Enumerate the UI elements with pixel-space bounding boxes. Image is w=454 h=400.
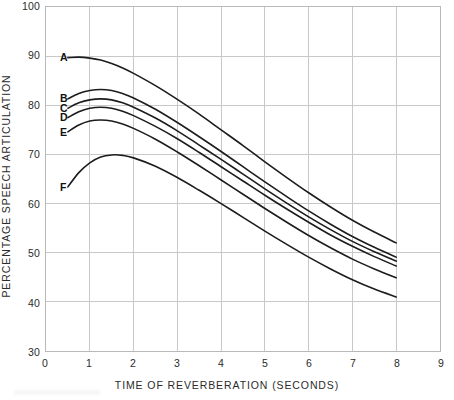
x-tick-label-3: 3 — [165, 357, 189, 369]
curve-e — [68, 120, 396, 278]
x-tick-label-9: 9 — [429, 357, 453, 369]
x-tick-label-4: 4 — [209, 357, 233, 369]
curve-f — [68, 155, 396, 297]
chart-figure: 30405060708090100 0123456789 ABCDEF PERC… — [0, 0, 454, 400]
y-axis-title: PERCENTAGE SPEECH ARTICULATION — [0, 13, 14, 359]
curve-label-a: A — [60, 51, 68, 63]
scan-artifact — [14, 390, 100, 395]
x-tick-label-2: 2 — [121, 357, 145, 369]
x-tick-label-5: 5 — [253, 357, 277, 369]
curve-c — [68, 99, 396, 261]
x-tick-label-7: 7 — [341, 357, 365, 369]
x-tick-label-8: 8 — [385, 357, 409, 369]
x-tick-label-6: 6 — [297, 357, 321, 369]
curve-layer — [46, 7, 440, 351]
curve-label-d: D — [60, 111, 68, 123]
curve-a — [68, 57, 396, 243]
x-tick-label-1: 1 — [77, 357, 101, 369]
curve-label-f: F — [60, 181, 67, 193]
x-tick-label-0: 0 — [33, 357, 57, 369]
y-tick-label-100: 100 — [6, 0, 40, 12]
curve-label-e: E — [60, 126, 67, 138]
plot-area — [45, 6, 441, 352]
